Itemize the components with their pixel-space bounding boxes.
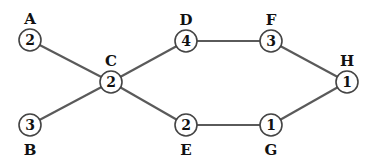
node-d: 4D (175, 11, 197, 52)
graph-diagram: 2A3B2C4D2E3F1G1H (0, 0, 378, 166)
node-value: 3 (25, 117, 35, 133)
node-g: 1G (260, 114, 282, 159)
node-a: 2A (19, 10, 41, 51)
node-label: C (105, 52, 117, 70)
edge-g-h (271, 82, 347, 125)
node-e: 2E (175, 114, 197, 159)
edge-f-h (271, 41, 347, 82)
node-f: 3F (260, 11, 282, 52)
node-label: D (179, 11, 192, 29)
node-label: A (23, 10, 36, 28)
node-c: 2C (100, 52, 122, 93)
node-value: 1 (266, 117, 276, 133)
edges-layer (30, 40, 347, 125)
node-value: 4 (181, 33, 191, 49)
node-label: H (340, 52, 354, 70)
edge-c-d (111, 41, 186, 82)
edge-a-c (30, 40, 111, 82)
node-h: 1H (336, 52, 358, 93)
node-value: 3 (266, 33, 276, 49)
nodes-layer: 2A3B2C4D2E3F1G1H (19, 10, 358, 159)
node-value: 2 (106, 74, 116, 90)
node-label: F (266, 11, 277, 29)
edge-b-c (30, 82, 111, 125)
node-value: 2 (25, 32, 35, 48)
node-value: 1 (342, 74, 352, 90)
node-b: 3B (19, 114, 41, 159)
node-label: G (265, 141, 278, 159)
node-label: B (24, 141, 37, 159)
node-label: E (180, 141, 191, 159)
edge-c-e (111, 82, 186, 125)
node-value: 2 (181, 117, 191, 133)
